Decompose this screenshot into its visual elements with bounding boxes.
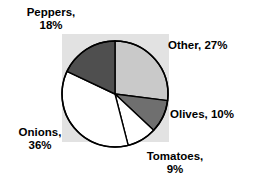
pie-label-onions-line2: 36% — [6, 139, 74, 152]
pie-label-other: Other, 27% — [168, 39, 227, 52]
pie-label-onions-line1: Onions, — [19, 126, 62, 138]
pie-label-tomatoes-line2: 9% — [132, 163, 218, 176]
pie-label-peppers-line1: Peppers, — [27, 6, 76, 18]
pie-label-olives-line1: Olives, 10% — [170, 108, 234, 120]
pie-slice-group — [62, 41, 168, 147]
pie-label-peppers: Peppers, 18% — [12, 6, 90, 32]
pie-label-tomatoes-line1: Tomatoes, — [147, 150, 204, 162]
pie-label-olives: Olives, 10% — [170, 108, 234, 121]
pie-chart: Peppers, 18% Other, 27% Olives, 10% Toma… — [0, 0, 264, 192]
pie-label-onions: Onions, 36% — [6, 126, 74, 152]
pie-label-tomatoes: Tomatoes, 9% — [132, 150, 218, 176]
pie-label-peppers-line2: 18% — [12, 19, 90, 32]
pie-label-other-line1: Other, 27% — [168, 39, 227, 51]
pie-slice-other — [115, 41, 168, 101]
